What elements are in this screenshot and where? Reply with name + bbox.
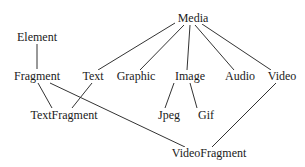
edge-image-gif [190, 83, 197, 108]
edge-image-jpeg [165, 83, 174, 108]
node-gif: Gif [197, 109, 215, 121]
node-graphic: Graphic [116, 70, 157, 82]
node-fragment: Fragment [13, 70, 61, 82]
edge-video-videofragment [212, 83, 276, 147]
edge-media-graphic [140, 25, 184, 70]
node-element: Element [16, 31, 58, 43]
node-jpeg: Jpeg [157, 109, 181, 121]
node-media: Media [177, 12, 210, 24]
node-image: Image [174, 70, 206, 82]
edge-text-textfragment [72, 83, 92, 108]
node-videofragment: VideoFragment [171, 147, 248, 159]
node-video: Video [267, 70, 298, 82]
edge-fragment-textfragment [38, 83, 52, 108]
diagram-edges [0, 0, 305, 167]
node-textfragment: TextFragment [29, 109, 98, 121]
edge-media-image [187, 25, 190, 70]
edge-media-video [202, 24, 271, 70]
node-audio: Audio [224, 70, 256, 82]
node-text: Text [81, 70, 104, 82]
